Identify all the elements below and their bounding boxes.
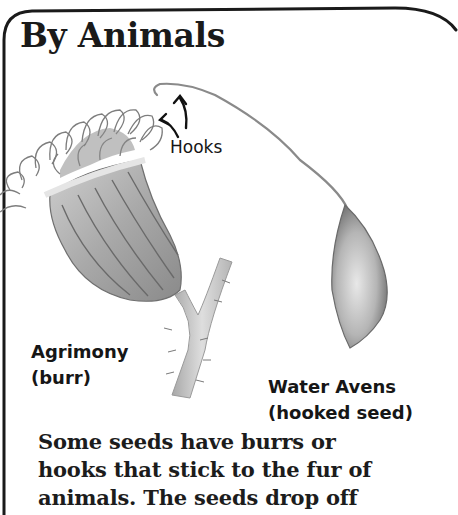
- agrimony-burr: [0, 110, 181, 301]
- water-avens-note: (hooked seed): [268, 400, 413, 426]
- hooks-arrows: [160, 96, 186, 137]
- agrimony-label: Agrimony (burr): [31, 339, 129, 391]
- book-page: By Animals: [0, 0, 458, 515]
- body-paragraph: Some seeds have burrs or hooks that stic…: [38, 428, 458, 512]
- body-line: animals. The seeds drop off: [38, 484, 458, 512]
- water-avens-label: Water Avens (hooked seed): [268, 374, 413, 426]
- agrimony-name: Agrimony: [31, 339, 129, 365]
- body-line: hooks that stick to the fur of: [38, 456, 458, 484]
- water-avens-name: Water Avens: [268, 374, 413, 400]
- body-line: Some seeds have burrs or: [38, 428, 458, 456]
- hooks-label: Hooks: [170, 134, 222, 160]
- agrimony-note: (burr): [31, 365, 129, 391]
